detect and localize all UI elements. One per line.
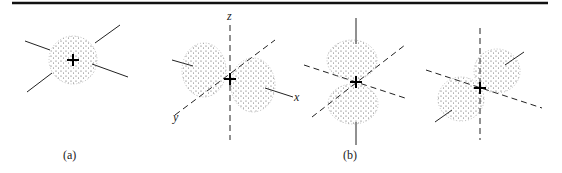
- axis-label-x: x: [293, 90, 300, 104]
- panel-a-s-orbital: (a): [25, 25, 128, 162]
- caption-b: (b): [343, 148, 357, 162]
- px-lobe-right: [231, 58, 275, 112]
- axis-label-y: y: [172, 110, 179, 124]
- caption-a: (a): [63, 148, 76, 162]
- py-lobe-front: [438, 77, 484, 121]
- orbital-diagram: (a) z x y (b): [0, 0, 562, 173]
- panel-b-py-orbital: [426, 28, 542, 140]
- pz-lobe-top: [327, 40, 377, 80]
- panel-b-pz-orbital: (b): [304, 18, 408, 162]
- axis-label-z: z: [226, 9, 232, 23]
- panel-b-px-orbital: z x y: [172, 9, 300, 140]
- pz-lobe-bottom: [328, 84, 378, 124]
- px-lobe-left: [182, 43, 226, 97]
